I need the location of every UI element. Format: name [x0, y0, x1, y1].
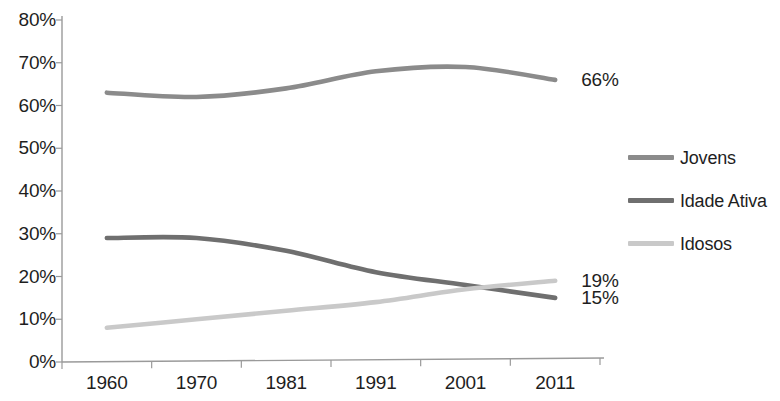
legend-label: Jovens [680, 148, 736, 168]
legend-label: Idosos [680, 234, 732, 254]
x-axis-line [62, 358, 604, 362]
series-line-idosos [107, 281, 555, 328]
x-axis-tick-label: 1991 [331, 372, 421, 394]
legend: JovensIdade AtivaIdosos [628, 136, 780, 265]
x-axis: 196019701981199120012011 [0, 372, 780, 401]
y-axis-ticks [56, 20, 62, 362]
legend-swatch-icon [628, 155, 674, 160]
axis-lines [62, 16, 604, 362]
legend-swatch-icon [628, 198, 674, 203]
data-point-label-idosos: 19% [581, 271, 618, 290]
line-chart: 0%10%20%30%40%50%60%70%80% 1960197019811… [0, 0, 780, 401]
x-axis-tick-label: 1981 [241, 372, 331, 394]
x-axis-tick-label: 1960 [62, 372, 152, 394]
legend-item-idosos[interactable]: Idosos [628, 222, 780, 265]
x-axis-tick-label: 1970 [152, 372, 242, 394]
series-lines [107, 67, 555, 328]
x-axis-tick-label: 2011 [510, 372, 600, 394]
legend-label: Idade Ativa [680, 191, 767, 211]
legend-item-jovens[interactable]: Jovens [628, 136, 780, 179]
x-axis-tick-label: 2001 [421, 372, 511, 394]
legend-item-idade-ativa[interactable]: Idade Ativa [628, 179, 780, 222]
legend-swatch-icon [628, 241, 674, 246]
data-point-label-jovens: 66% [581, 70, 618, 89]
series-line-jovens [107, 67, 555, 97]
